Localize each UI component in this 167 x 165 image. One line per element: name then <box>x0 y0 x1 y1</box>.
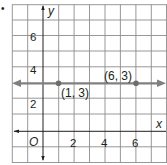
x-tick-2: 2 <box>70 137 76 149</box>
point-label-6-3: (6, 3) <box>104 69 132 83</box>
x-tick-6: 6 <box>132 137 138 149</box>
coordinate-plane: • y x O 2 4 6 2 <box>0 0 167 165</box>
arrow-down-icon <box>41 156 44 161</box>
y-axis-label: y <box>47 4 55 18</box>
problem-marker: • <box>1 3 5 14</box>
line-arrow-right-icon <box>157 80 166 88</box>
point-6-3 <box>133 81 139 87</box>
y-tick-4: 4 <box>30 64 37 76</box>
x-tick-4: 4 <box>101 137 108 149</box>
y-tick-2: 2 <box>30 98 36 110</box>
arrow-left-icon <box>14 130 20 133</box>
line-arrow-left-icon <box>12 80 21 88</box>
y-tick-6: 6 <box>30 31 36 43</box>
point-label-1-3: (1, 3) <box>61 86 89 100</box>
origin-label: O <box>29 135 38 149</box>
x-axis-label: x <box>155 117 163 131</box>
arrow-up-icon <box>41 5 44 10</box>
